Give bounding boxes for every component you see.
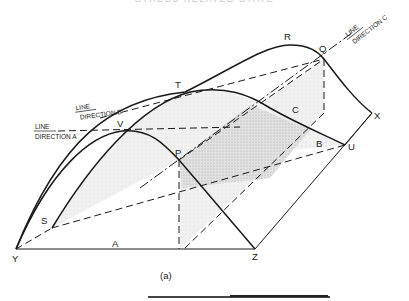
label-r: R — [284, 31, 291, 42]
next-figure-edge-dark — [230, 295, 328, 297]
label-u: U — [348, 141, 355, 152]
label-p: P — [175, 147, 181, 158]
line-direction-c-label: LINE DIRECTION C — [342, 5, 388, 46]
svg-text:DIRECTION B: DIRECTION B — [80, 108, 122, 121]
svg-text:LINE: LINE — [35, 123, 50, 130]
label-s: S — [41, 215, 47, 226]
svg-text:DIRECTION A: DIRECTION A — [35, 133, 77, 140]
label-v: V — [117, 118, 124, 129]
label-x: X — [374, 110, 381, 121]
svg-text:LINE: LINE — [75, 102, 91, 111]
line-direction-b-label: LINE DIRECTION B — [74, 98, 122, 121]
label-t: T — [175, 79, 181, 90]
region-label-a: A — [112, 238, 119, 249]
label-q: Q — [319, 43, 326, 54]
label-z: Z — [252, 251, 258, 262]
state-boundary-diagram: R Q T V P S U X Y Z A B C LINE DIRECTION… — [0, 0, 409, 301]
figure-caption: (a) — [160, 270, 172, 281]
region-label-c: C — [292, 104, 299, 115]
region-label-b: B — [316, 138, 322, 149]
label-y: Y — [12, 253, 19, 264]
line-direction-a-label: LINE DIRECTION A — [34, 123, 77, 140]
